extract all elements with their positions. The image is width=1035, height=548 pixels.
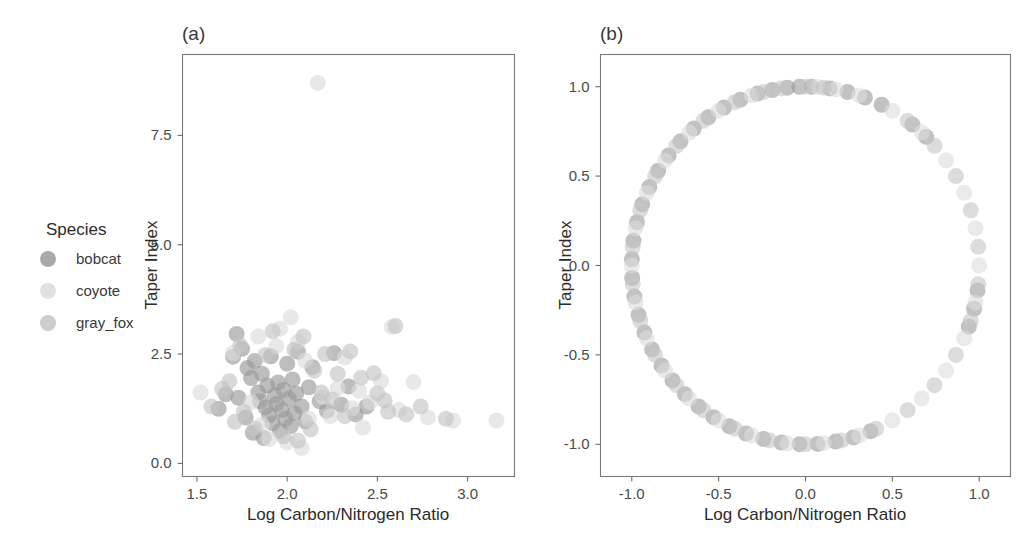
data-point: [727, 94, 743, 110]
data-point: [657, 363, 673, 379]
data-point: [868, 421, 884, 437]
data-point: [647, 168, 663, 184]
y-tick-label: 1.0: [569, 78, 590, 95]
data-point: [963, 202, 979, 218]
panel-b-x-axis: -1.0-0.50.00.51.0: [619, 477, 990, 502]
data-point: [337, 408, 353, 424]
data-point: [203, 399, 219, 415]
data-point: [647, 347, 663, 363]
data-point: [851, 87, 867, 103]
data-point: [938, 152, 954, 168]
legend-swatch-coyote: [40, 283, 56, 299]
y-tick-label: 2.5: [151, 345, 172, 362]
data-point: [761, 432, 777, 448]
legend-item-coyote[interactable]: coyote: [40, 282, 120, 299]
data-point: [247, 420, 263, 436]
data-point: [963, 313, 979, 329]
data-point: [306, 363, 322, 379]
data-point: [971, 258, 987, 274]
data-point: [668, 138, 684, 154]
data-point: [668, 377, 684, 393]
data-point: [927, 138, 943, 154]
data-point: [624, 258, 640, 274]
data-point: [310, 75, 326, 91]
data-point: [900, 402, 916, 418]
data-point: [798, 79, 814, 95]
y-tick-label: 0.0: [151, 454, 172, 471]
data-point: [744, 428, 760, 444]
data-point: [956, 330, 972, 346]
data-point: [779, 435, 795, 451]
x-tick-label: -1.0: [619, 485, 645, 502]
panel-a: (a) 1.52.02.53.0 0.02.55.07.5 Log Carbon…: [142, 23, 515, 524]
data-point: [956, 185, 972, 201]
data-point: [303, 421, 319, 437]
data-point: [322, 408, 338, 424]
data-point: [295, 329, 311, 345]
data-point: [639, 185, 655, 201]
legend-label-gray_fox: gray_fox: [76, 314, 134, 331]
data-point: [727, 421, 743, 437]
data-point: [286, 342, 302, 358]
legend-swatch-bobcat: [40, 251, 56, 267]
x-tick-label: 0.5: [882, 485, 903, 502]
legend-item-gray_fox[interactable]: gray_fox: [40, 314, 134, 331]
data-point: [625, 239, 641, 255]
y-tick-label: -0.5: [564, 346, 590, 363]
data-point: [948, 168, 964, 184]
data-point: [711, 412, 727, 428]
legend-label-bobcat: bobcat: [76, 250, 122, 267]
data-point: [938, 363, 954, 379]
data-point: [276, 428, 292, 444]
data-point: [261, 431, 277, 447]
data-point: [324, 392, 340, 408]
legend-swatch-gray_fox: [40, 315, 56, 331]
data-point: [884, 103, 900, 119]
series-bobcat: [624, 79, 986, 452]
panel-a-x-axis-title: Log Carbon/Nitrogen Ratio: [247, 505, 449, 524]
data-point: [816, 435, 832, 451]
data-point: [258, 347, 274, 363]
panel-b-x-axis-title: Log Carbon/Nitrogen Ratio: [704, 505, 906, 524]
panel-b-points: [624, 79, 987, 453]
data-point: [914, 390, 930, 406]
data-point: [900, 113, 916, 129]
data-point: [330, 366, 346, 382]
panel-b-y-axis-title: Taper Index: [556, 220, 575, 309]
data-point: [405, 374, 421, 390]
data-point: [366, 365, 382, 381]
data-point: [193, 385, 209, 401]
x-tick-label: 2.5: [367, 485, 388, 502]
data-point: [488, 413, 504, 429]
panel-a-tag: (a): [182, 23, 205, 44]
x-tick-label: -0.5: [706, 485, 732, 502]
data-point: [355, 420, 371, 436]
panel-a-points: [193, 75, 505, 456]
panel-a-x-axis: 1.52.02.53.0: [187, 477, 479, 502]
data-point: [628, 295, 644, 311]
data-point: [232, 337, 248, 353]
data-point: [214, 381, 230, 397]
data-point: [283, 309, 299, 325]
x-tick-label: 0.0: [795, 485, 816, 502]
data-point: [927, 377, 943, 393]
data-point: [227, 414, 243, 430]
data-point: [632, 202, 648, 218]
legend: Species bobcatcoyotegray_fox: [40, 220, 134, 331]
y-tick-label: 7.5: [151, 126, 172, 143]
data-point: [851, 428, 867, 444]
scatter-figure: Species bobcatcoyotegray_fox (a) 1.52.02…: [0, 0, 1035, 548]
panel-b-frame: [601, 55, 1011, 477]
y-tick-label: -1.0: [564, 435, 590, 452]
data-point: [438, 411, 454, 427]
data-point: [695, 402, 711, 418]
x-tick-label: 2.0: [277, 485, 298, 502]
x-tick-label: 1.5: [187, 485, 208, 502]
data-point: [967, 295, 983, 311]
data-point: [285, 371, 301, 387]
data-point: [967, 220, 983, 236]
legend-item-bobcat[interactable]: bobcat: [40, 250, 122, 267]
data-point: [317, 346, 333, 362]
data-point: [798, 436, 814, 452]
panel-b: (b) -1.0-0.50.00.51.0 -1.0-0.50.00.51.0 …: [556, 23, 1011, 524]
